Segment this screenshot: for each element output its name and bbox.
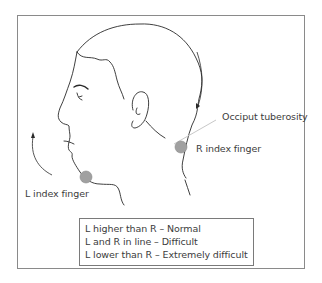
head-outline	[77, 24, 202, 178]
right-finger-label: R index finger	[196, 143, 261, 154]
arrowhead-up-icon	[31, 132, 35, 138]
right-finger-marker	[175, 141, 187, 153]
hairline	[77, 52, 124, 99]
legend-line-difficult: L and R in line – Difficult	[85, 235, 253, 248]
neck-line	[146, 121, 165, 138]
legend-box: L higher than R – Normal L and R in line…	[79, 218, 254, 266]
occiput-pointer-line	[174, 120, 216, 144]
left-finger-marker	[80, 171, 92, 183]
left-finger-label: L index finger	[25, 188, 89, 199]
curved-arrow-up-icon	[32, 137, 52, 175]
eyebrow	[74, 85, 88, 89]
occiput-label: Occiput tuberosity	[222, 111, 308, 122]
neck-back	[185, 180, 190, 195]
ear	[132, 92, 149, 128]
legend-line-normal: L higher than R – Normal	[85, 222, 253, 235]
eye	[77, 93, 82, 100]
face-outline	[58, 52, 124, 205]
legend-line-extremely-difficult: L lower than R – Extremely difficult	[85, 248, 253, 261]
